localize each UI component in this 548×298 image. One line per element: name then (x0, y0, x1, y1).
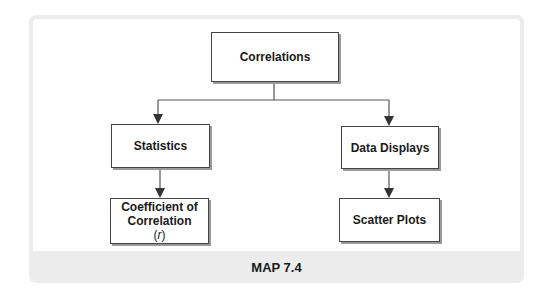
arrow-down-icon (384, 188, 394, 198)
node-statistics: Statistics (111, 124, 210, 168)
node-label-line1: Coefficient of (121, 200, 198, 214)
arrow-down-icon (384, 116, 394, 126)
node-label: Correlations (240, 50, 311, 64)
node-label: Statistics (134, 139, 187, 153)
node-label-symbol: (r) (154, 228, 166, 242)
arrow-down-icon (153, 114, 163, 124)
node-label: Scatter Plots (353, 213, 426, 227)
node-correlations: Correlations (211, 32, 339, 82)
node-label-line2: Correlation (127, 214, 191, 228)
arrow-down-icon (155, 188, 165, 198)
node-label: Data Displays (351, 141, 430, 155)
node-scatter-plots: Scatter Plots (339, 198, 440, 242)
node-data-displays: Data Displays (341, 126, 439, 169)
node-coefficient-of-correlation: Coefficient of Correlation (r) (110, 198, 209, 244)
